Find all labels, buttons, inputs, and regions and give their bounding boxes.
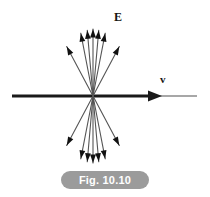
field-arrowhead-1: [80, 33, 86, 42]
figure-container: E v Fig. 10.10: [0, 0, 210, 197]
velocity-arrowhead: [148, 91, 162, 102]
velocity-axis: [12, 91, 197, 102]
field-arrowhead-2: [85, 30, 91, 39]
field-arrowhead-10: [90, 155, 96, 164]
field-line-diagram: [0, 0, 210, 197]
field-arrowhead-11: [95, 153, 101, 162]
field-arrowhead-7: [67, 137, 74, 146]
field-arrowhead-13: [113, 137, 120, 146]
field-arrowhead-3: [90, 29, 96, 38]
field-arrowhead-9: [85, 153, 91, 162]
field-arrowhead-4: [95, 30, 101, 39]
field-label-E: E: [114, 11, 122, 23]
velocity-label-v: v: [160, 74, 166, 85]
figure-caption-text: Fig. 10.10: [79, 175, 131, 186]
field-line-5: [93, 33, 105, 96]
field-arrowhead-0: [67, 47, 74, 56]
field-line-8: [81, 96, 93, 159]
field-arrowhead-12: [101, 150, 107, 159]
field-arrowhead-5: [101, 33, 107, 42]
field-line-12: [93, 96, 105, 159]
field-line-1: [81, 33, 93, 96]
figure-caption-pill: Fig. 10.10: [61, 171, 149, 189]
field-arrowhead-6: [113, 47, 120, 56]
field-arrowhead-8: [80, 150, 86, 159]
